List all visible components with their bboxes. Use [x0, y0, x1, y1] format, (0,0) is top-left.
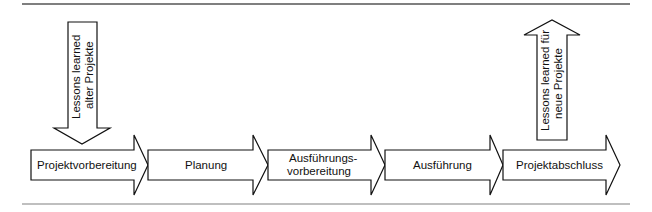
down-arrow-icon: [54, 22, 110, 144]
phase-projektabschluss: Projektabschluss: [503, 135, 620, 195]
process-diagram: Lessons learned alter Projekte Lessons l…: [0, 0, 652, 212]
phase-ausfuehrung: Ausführung: [385, 135, 503, 195]
phase-label-line-1: Ausführungs-: [289, 152, 358, 164]
phase-planung: Planung: [148, 135, 268, 195]
output-arrow-lessons-learned-new-projects: Lessons learned für neue Projekte: [524, 20, 580, 140]
input-arrow-label-line-1: Lessons learned: [70, 35, 82, 119]
phase-label-line-2: vorbereitung: [287, 165, 351, 177]
phase-label: Projektvorbereitung: [37, 159, 137, 171]
phase-label: Planung: [185, 159, 227, 171]
phase-label: Projektabschluss: [516, 159, 603, 171]
phase-label: Ausführung: [413, 159, 472, 171]
output-arrow-label-line-1: Lessons learned für: [539, 30, 551, 131]
input-arrow-label-line-2: alter Projekte: [83, 41, 95, 109]
phase-projektvorbereitung: Projektvorbereitung: [31, 135, 148, 195]
phase-ausfuehrungsvorbereitung: Ausführungs- vorbereitung: [268, 135, 385, 195]
input-arrow-lessons-learned-old-projects: Lessons learned alter Projekte: [54, 22, 110, 144]
output-arrow-label-line-2: neue Projekte: [552, 48, 564, 119]
